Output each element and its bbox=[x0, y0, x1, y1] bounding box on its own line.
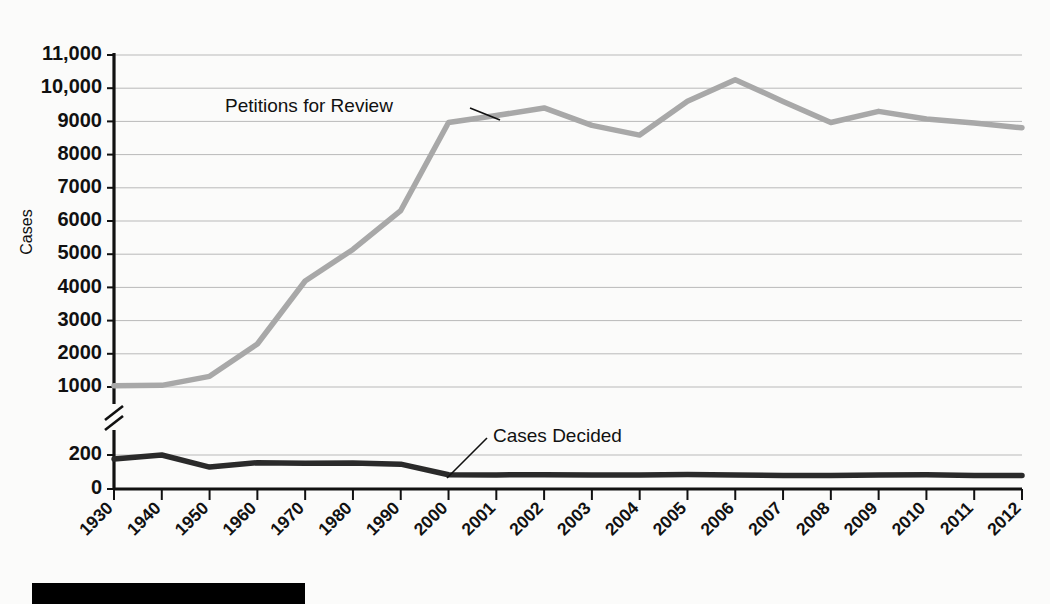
annotation-decided-label: Cases Decided bbox=[493, 425, 622, 446]
x-tick-label: 2008 bbox=[792, 498, 834, 540]
annotation-decided-leader bbox=[447, 438, 487, 478]
x-tick-label: 1980 bbox=[314, 498, 356, 540]
x-axis-labels: 1930194019501960197019801990200020012002… bbox=[75, 489, 1025, 539]
x-tick-label: 1990 bbox=[362, 498, 404, 540]
x-tick-label: 2011 bbox=[936, 497, 977, 538]
y-tick-label: 200 bbox=[69, 442, 102, 464]
x-tick-label: 2003 bbox=[553, 498, 595, 540]
y-tick-label: 3000 bbox=[58, 308, 103, 330]
x-tick-label: 2001 bbox=[457, 498, 499, 540]
y-tick-label: 4000 bbox=[58, 275, 103, 297]
axis-break-marker bbox=[105, 404, 123, 430]
annotations: Petitions for ReviewCases Decided bbox=[225, 95, 622, 478]
x-tick-label: 2009 bbox=[840, 498, 882, 540]
y-axis-title: Cases bbox=[18, 209, 35, 254]
x-tick-label: 1970 bbox=[266, 498, 308, 540]
x-tick-label: 2005 bbox=[649, 498, 691, 540]
x-tick-label: 2007 bbox=[744, 498, 786, 540]
x-tick-label: 1960 bbox=[219, 498, 261, 540]
series-cases-decided-line bbox=[114, 455, 1022, 475]
y-tick-label: 10,000 bbox=[41, 75, 102, 97]
y-tick-label: 7000 bbox=[58, 175, 103, 197]
y-tick-label: 0 bbox=[91, 476, 102, 498]
x-tick-label: 1930 bbox=[75, 498, 117, 540]
y-axis-labels: 11,00010,0009000800070006000500040003000… bbox=[41, 42, 114, 498]
x-tick-label: 1950 bbox=[171, 498, 213, 540]
x-tick-label: 2010 bbox=[888, 498, 930, 540]
x-tick-label: 2000 bbox=[410, 498, 452, 540]
y-tick-label: 2000 bbox=[58, 341, 103, 363]
y-tick-label: 6000 bbox=[58, 208, 103, 230]
x-tick-label: 2004 bbox=[601, 498, 643, 540]
x-tick-label: 2006 bbox=[696, 498, 738, 540]
y-tick-label: 8000 bbox=[58, 142, 103, 164]
x-tick-label: 2002 bbox=[505, 498, 547, 540]
y-tick-label: 11,000 bbox=[42, 42, 102, 64]
bottom-black-bar bbox=[32, 583, 305, 604]
y-tick-label: 9000 bbox=[58, 109, 103, 131]
x-tick-label: 2012 bbox=[983, 498, 1025, 540]
annotation-petitions-label: Petitions for Review bbox=[225, 95, 393, 116]
x-tick-label: 1940 bbox=[123, 498, 165, 540]
y-tick-label: 1000 bbox=[58, 374, 103, 396]
series-petitions-line bbox=[114, 80, 1022, 386]
y-tick-label: 5000 bbox=[58, 241, 103, 263]
